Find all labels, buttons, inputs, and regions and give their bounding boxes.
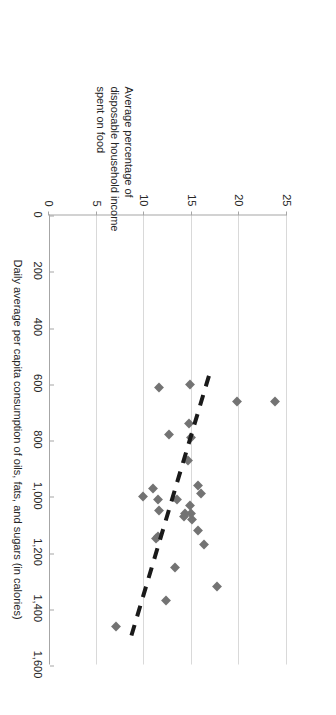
x-axis-tick-label: 200 (32, 261, 44, 279)
y-axis-tick-label: 15 (186, 194, 198, 206)
y-axis-tick (238, 211, 239, 215)
x-axis-tick-label: 1,400 (32, 594, 44, 622)
y-axis-tick-label: 25 (281, 194, 293, 206)
trendline-segment (131, 375, 209, 637)
x-axis-tick-label: 800 (32, 430, 44, 448)
plot-area (49, 214, 287, 664)
x-axis-tick-label: 1,600 (32, 650, 44, 678)
x-axis-tick-label: 1,200 (32, 538, 44, 566)
y-axis-title: Average percentage of disposable househo… (94, 86, 136, 246)
y-axis-tick (143, 211, 144, 215)
y-axis-tick-label: 10 (138, 194, 150, 206)
y-axis-tick (48, 211, 49, 215)
x-axis-title: Daily average per capita consumption of … (12, 259, 24, 619)
scatter-chart: 02004006008001,0001,2001,4001,600 051015… (0, 0, 336, 715)
x-axis-tick-label: 1,000 (32, 481, 44, 509)
x-axis-tick-label: 0 (32, 211, 44, 217)
y-axis-tick-label: 20 (233, 194, 245, 206)
y-axis-tick (286, 211, 287, 215)
x-axis-tick-label: 600 (32, 374, 44, 392)
trendline (49, 215, 287, 665)
rotated-chart-wrapper: 02004006008001,0001,2001,4001,600 051015… (0, 0, 336, 715)
y-axis-tick (191, 211, 192, 215)
x-axis-tick-label: 400 (32, 317, 44, 335)
y-axis-tick-label: 0 (43, 200, 55, 206)
